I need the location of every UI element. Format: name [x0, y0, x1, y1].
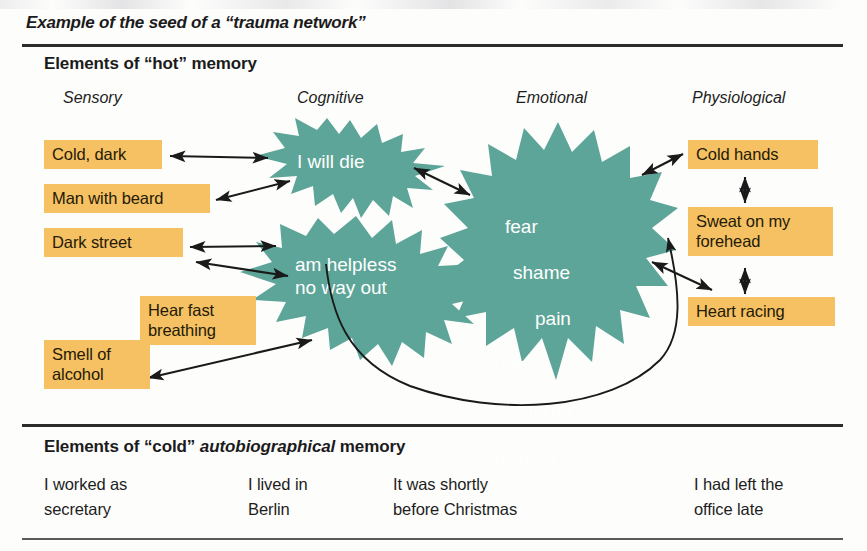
column-header-sensory: Sensory: [63, 89, 122, 107]
rule-bottom: [22, 538, 843, 540]
cold-memory-item-shortly-before-christmas: It was shortly before Christmas: [393, 472, 517, 522]
cold-title-part1: Elements of “cold”: [44, 437, 200, 456]
hot-memory-section-title: Elements of “hot” memory: [44, 54, 257, 74]
cold-title-italic: autobiographical: [200, 437, 335, 456]
emotion-disgust: disgust: [495, 445, 574, 468]
cold-title-part2: memory: [335, 437, 405, 456]
sensory-box-man-with-beard: Man with beard: [44, 184, 210, 213]
sensory-box-hear-fast-breathing: Hear fast breathing: [140, 296, 256, 345]
sensory-box-cold-dark: Cold, dark: [44, 140, 162, 169]
cold-memory-section-title: Elements of “cold” autobiographical memo…: [44, 437, 405, 457]
cold-memory-item-left-the-office-late: I had left the office late: [694, 472, 783, 522]
cold-memory-item-worked-as-secretary: I worked as secretary: [44, 472, 127, 522]
physiological-box-cold-hands: Cold hands: [688, 140, 818, 169]
figure-title: Example of the seed of a “trauma network…: [26, 13, 365, 33]
column-header-physiological: Physiological: [692, 89, 785, 107]
cold-memory-item-lived-in-berlin: I lived in Berlin: [248, 472, 308, 522]
physiological-box-sweat-on-my-forehead: Sweat on my forehead: [688, 207, 833, 256]
cognitive-star-i-will-die: [255, 118, 445, 218]
column-header-cognitive: Cognitive: [297, 89, 364, 107]
physiological-box-heart-racing: Heart racing: [688, 297, 835, 326]
trauma-network-figure: Example of the seed of a “trauma network…: [0, 0, 867, 551]
arrow-cold-dark-to-i-will-die: [170, 156, 268, 158]
rule-top: [22, 44, 843, 47]
emotion-horror: horror: [495, 399, 574, 422]
scan-artifact: [0, 0, 867, 9]
column-header-emotional: Emotional: [516, 89, 587, 107]
sensory-box-smell-of-alcohol: Smell of alcohol: [44, 340, 150, 389]
sensory-box-dark-street: Dark street: [44, 228, 183, 257]
rule-middle: [22, 424, 843, 427]
emotional-star: [438, 122, 678, 382]
